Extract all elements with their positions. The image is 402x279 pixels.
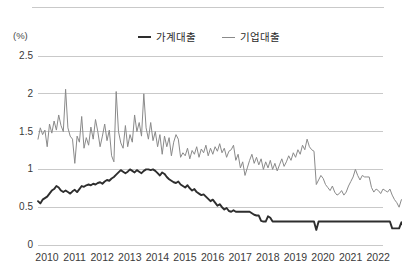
x-axis-tick: 2012: [91, 252, 114, 263]
legend-line-swatch-household: [138, 36, 151, 38]
x-axis-tick: 2015: [173, 252, 196, 263]
y-axis-tick: 2: [27, 89, 33, 99]
chart-figure: 가계대출 기업대출 (%) 2.521.510.50 2010201120122…: [0, 0, 402, 279]
x-axis-tick: 2010: [35, 252, 58, 263]
plot-area: [38, 56, 383, 245]
y-axis-tick: 2.5: [19, 51, 33, 61]
x-axis-tick: 2020: [311, 252, 334, 263]
series-lines: [38, 89, 402, 230]
legend-label-corporate: 기업대출: [240, 32, 280, 43]
y-axis-tick: 0: [27, 240, 33, 250]
y-axis-tick: 1: [27, 164, 33, 174]
y-axis-tick: 1.5: [19, 127, 33, 137]
chart-legend: 가계대출 기업대출: [138, 29, 318, 45]
top-divider: [32, 7, 384, 8]
y-axis-tick: 0.5: [19, 202, 33, 212]
x-axis-tick: 2011: [63, 252, 86, 263]
legend-line-swatch-corporate: [222, 37, 235, 38]
legend-item-household: 가계대출: [138, 32, 196, 43]
y-axis-tick-labels: 2.521.510.50: [0, 56, 33, 245]
gridlines: [38, 56, 383, 245]
x-axis-tick: 2021: [339, 252, 362, 263]
x-axis-tick-labels: 2010201120122013201420152016201720182019…: [0, 252, 402, 268]
legend-label-household: 가계대출: [156, 32, 196, 43]
x-axis-tick: 2017: [229, 252, 252, 263]
legend-item-corporate: 기업대출: [222, 32, 280, 43]
x-axis-tick: 2016: [201, 252, 224, 263]
plot-svg: [38, 56, 383, 245]
series-line: [38, 89, 402, 222]
y-axis-unit-label: (%): [13, 31, 28, 41]
x-axis-tick: 2013: [118, 252, 141, 263]
x-axis-tick: 2022: [367, 252, 390, 263]
series-line: [38, 169, 402, 229]
x-axis-tick: 2018: [256, 252, 279, 263]
x-axis-tick: 2019: [284, 252, 307, 263]
x-axis-tick: 2014: [146, 252, 169, 263]
